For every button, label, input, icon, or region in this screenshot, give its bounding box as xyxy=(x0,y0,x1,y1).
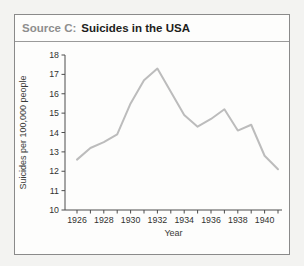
y-tick-label: 14 xyxy=(49,128,59,138)
x-tick-label: 1932 xyxy=(148,215,168,225)
data-line xyxy=(77,69,278,170)
x-tick-label: 1928 xyxy=(94,215,114,225)
source-panel: Source C: Suicides in the USA 1011121314… xyxy=(14,14,290,255)
source-title-bar: Source C: Suicides in the USA xyxy=(15,15,289,42)
y-tick-label: 12 xyxy=(49,166,59,176)
y-tick-label: 13 xyxy=(49,147,59,157)
x-tick-label: 1934 xyxy=(174,215,194,225)
y-tick-label: 11 xyxy=(50,186,59,196)
x-axis-title: Year xyxy=(164,228,182,238)
line-chart: 1011121314151617181926192819301932193419… xyxy=(15,42,289,254)
y-tick-label: 16 xyxy=(49,89,59,99)
y-axis-title: Suicides per 100,000 people xyxy=(18,75,28,189)
y-tick-label: 10 xyxy=(49,205,59,215)
y-tick-label: 17 xyxy=(49,69,59,79)
x-tick-label: 1926 xyxy=(67,215,87,225)
source-label: Source C: xyxy=(22,22,76,34)
y-tick-label: 18 xyxy=(49,50,59,60)
axes xyxy=(62,55,283,214)
x-tick-label: 1930 xyxy=(121,215,141,225)
x-tick-label: 1940 xyxy=(255,215,275,225)
x-tick-label: 1936 xyxy=(201,215,221,225)
axis-lines xyxy=(65,55,282,210)
screenshot-root: Source C: Suicides in the USA 1011121314… xyxy=(0,0,304,266)
source-title: Suicides in the USA xyxy=(81,22,190,34)
x-tick-label: 1938 xyxy=(228,215,248,225)
y-tick-label: 15 xyxy=(49,108,59,118)
